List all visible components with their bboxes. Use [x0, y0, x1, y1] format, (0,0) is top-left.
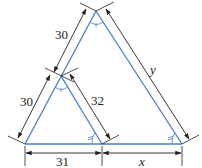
label-upper-left: 30 — [55, 27, 68, 42]
label-lower-left: 30 — [20, 94, 33, 109]
similar-triangles-diagram: 30 30 32 y 31 x — [0, 0, 202, 168]
angle-mark-large-apex — [90, 22, 103, 25]
angle-mark-small-apex — [55, 87, 68, 90]
dim-large-right — [106, 9, 189, 139]
large-right-side — [96, 11, 182, 144]
label-bottom-right: x — [138, 154, 145, 168]
label-large-right: y — [148, 62, 156, 77]
small-right-side — [61, 76, 102, 144]
label-bottom-left: 31 — [56, 154, 69, 168]
label-small-right: 32 — [91, 93, 104, 108]
dim-small-right — [70, 74, 110, 139]
extension-lines — [8, 2, 199, 166]
dimension-arrows — [18, 9, 189, 153]
